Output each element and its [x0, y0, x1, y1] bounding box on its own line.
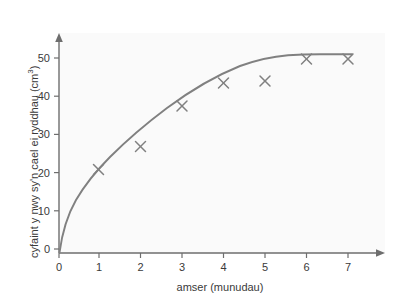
y-axis-title: cyfaint y nwy sy'n cael ei ryddhau (cm3): [28, 66, 40, 258]
chart-figure: 0 10 20 30 40 50 0 1 2 3 4 5 6 7 amser (…: [0, 0, 407, 303]
y-tick-label-50: 50: [30, 53, 50, 64]
y-axis-title-superscript: 3: [26, 69, 35, 73]
x-tick-label-7: 7: [338, 262, 358, 273]
x-tick-label-5: 5: [255, 262, 275, 273]
x-tick-label-6: 6: [297, 262, 317, 273]
x-tick-label-2: 2: [131, 262, 151, 273]
x-tick-label-0: 0: [49, 262, 69, 273]
plot-canvas: [0, 0, 407, 303]
x-axis-title: amser (munudau): [120, 281, 320, 293]
y-tick-marks: [54, 58, 59, 249]
x-tick-label-1: 1: [89, 262, 109, 273]
plot-background: [59, 33, 385, 253]
y-axis-title-text: cyfaint y nwy sy'n cael ei ryddhau (cm: [28, 74, 40, 258]
x-tick-marks: [59, 253, 348, 258]
x-tick-label-4: 4: [214, 262, 234, 273]
x-tick-label-3: 3: [172, 262, 192, 273]
y-axis-title-tail: ): [28, 66, 40, 70]
